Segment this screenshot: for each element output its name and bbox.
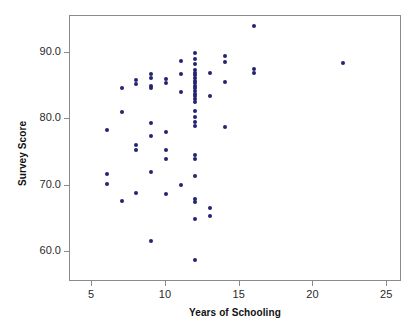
data-point <box>193 217 197 221</box>
x-axis-tick-label: 10 <box>145 288 185 300</box>
data-point <box>105 182 109 186</box>
plot-frame <box>69 15 401 281</box>
data-point <box>164 192 168 196</box>
x-axis-tick <box>239 281 240 286</box>
data-point <box>193 115 197 119</box>
data-point <box>193 258 197 262</box>
y-axis-tick-label: 90.0 <box>0 45 61 57</box>
data-point <box>252 24 256 28</box>
data-point <box>193 100 197 104</box>
data-point <box>208 71 212 75</box>
data-point <box>223 60 227 64</box>
x-axis-tick <box>165 281 166 286</box>
data-point <box>149 121 153 125</box>
data-point <box>193 200 197 204</box>
x-axis-tick <box>312 281 313 286</box>
data-point <box>134 191 138 195</box>
data-point <box>105 172 109 176</box>
data-point <box>149 170 153 174</box>
data-point <box>208 206 212 210</box>
x-axis-tick-label: 20 <box>292 288 332 300</box>
data-point <box>193 62 197 66</box>
data-point <box>223 125 227 129</box>
y-axis-tick-label: 60.0 <box>0 244 61 256</box>
data-point <box>120 86 124 90</box>
data-point <box>149 239 153 243</box>
scatter-plot-figure: Survey Score 60.070.080.090.0 510152025 … <box>0 0 415 332</box>
data-point <box>120 199 124 203</box>
data-point <box>193 109 197 113</box>
data-point <box>208 94 212 98</box>
data-point <box>193 51 197 55</box>
data-point <box>223 54 227 58</box>
y-axis-tick-label: 80.0 <box>0 111 61 123</box>
y-axis-tick-label: 70.0 <box>0 178 61 190</box>
data-point <box>164 130 168 134</box>
x-axis-tick-label: 25 <box>366 288 406 300</box>
data-point <box>193 174 197 178</box>
x-axis-title: Years of Schooling <box>69 307 401 318</box>
x-axis-tick <box>91 281 92 286</box>
data-point <box>164 157 168 161</box>
data-point <box>223 80 227 84</box>
data-point <box>164 148 168 152</box>
data-point <box>179 59 183 63</box>
x-axis-tick-label: 15 <box>219 288 259 300</box>
x-axis-tick <box>386 281 387 286</box>
data-point <box>164 81 168 85</box>
data-point <box>149 76 153 80</box>
data-point <box>149 86 153 90</box>
data-point <box>179 72 183 76</box>
data-point <box>179 183 183 187</box>
data-point <box>193 157 197 161</box>
data-point <box>252 71 256 75</box>
data-point <box>193 57 197 61</box>
x-axis-tick-label: 5 <box>71 288 111 300</box>
data-point <box>341 61 345 65</box>
data-point <box>149 134 153 138</box>
plot-area <box>70 16 400 280</box>
data-point <box>193 124 197 128</box>
data-point <box>134 82 138 86</box>
data-point <box>208 214 212 218</box>
data-point <box>179 90 183 94</box>
data-point <box>120 110 124 114</box>
data-point <box>252 67 256 71</box>
data-point <box>105 128 109 132</box>
data-point <box>134 148 138 152</box>
data-point <box>134 143 138 147</box>
